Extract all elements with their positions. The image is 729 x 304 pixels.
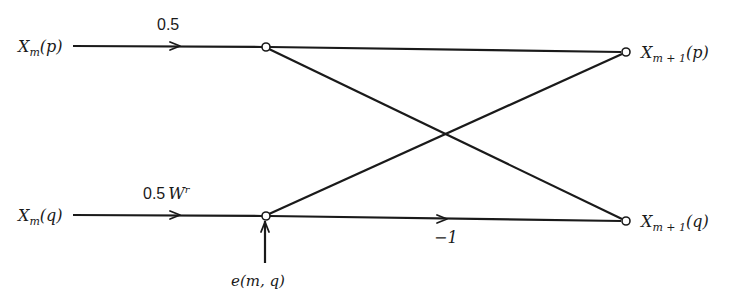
node-bottom-right [622, 217, 630, 225]
node-top-right [622, 48, 630, 56]
gain-label-bottom-input: 0.5Wr [143, 184, 191, 203]
edge-top-horizontal [270, 47, 621, 52]
butterfly-flow-graph: Xm(p) Xm(q) 0.5 0.5Wr −1 e(m, q) Xm + 1(… [0, 0, 729, 304]
input-label-top: Xm(p) [16, 37, 63, 59]
edge-bottom-input [73, 215, 262, 216]
output-label-top: Xm + 1(p) [639, 43, 709, 65]
node-top-left [262, 43, 270, 51]
edge-top-input [73, 46, 262, 47]
error-input-label: e(m, q) [231, 272, 285, 290]
gain-label-top-input: 0.5 [157, 16, 179, 33]
node-bottom-left [262, 212, 270, 220]
output-label-bottom: Xm + 1(q) [639, 212, 709, 234]
edge-cross-bottom-to-top [269, 54, 622, 214]
gain-label-bottom-horizontal: −1 [434, 228, 458, 247]
input-label-bottom: Xm(q) [16, 206, 63, 228]
